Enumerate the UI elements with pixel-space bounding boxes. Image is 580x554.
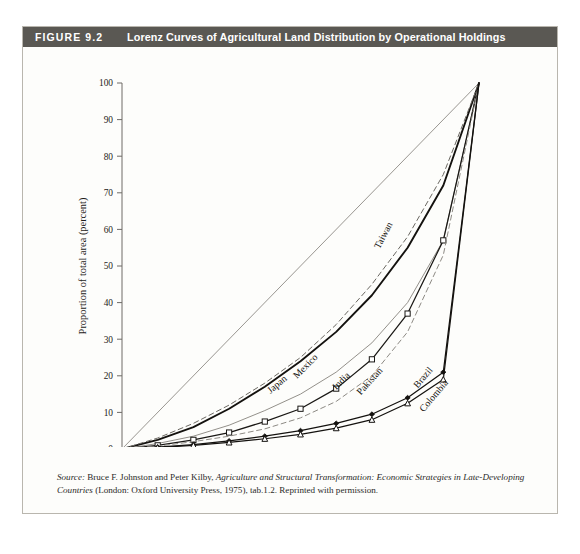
y-axis-tick-label: 50 <box>104 261 114 271</box>
series-marker-india <box>227 430 232 435</box>
y-axis-tick-label: 40 <box>104 298 114 308</box>
series-marker-india <box>441 238 446 243</box>
figure-header: FIGURE 9.2 Lorenz Curves of Agricultural… <box>23 27 557 47</box>
y-axis-tick-label: 0 <box>108 444 113 447</box>
source-note: Source: Bruce F. Johnston and Peter Kilb… <box>57 471 535 497</box>
y-axis-tick-label: 60 <box>104 225 114 235</box>
y-axis-title: Proportion of total area (percent) <box>77 198 89 335</box>
series-marker-india <box>405 311 410 316</box>
series-label-india: India <box>330 369 352 391</box>
chart-plot-area: 0102030405060708090100010203040506070809… <box>23 47 557 447</box>
source-publication: (London: Oxford University Press, 1975),… <box>93 485 378 495</box>
figure-card: FIGURE 9.2 Lorenz Curves of Agricultural… <box>22 26 558 514</box>
series-label-japan: Japan <box>265 373 289 396</box>
lorenz-curve-chart: 0102030405060708090100010203040506070809… <box>23 47 557 447</box>
figure-title: Lorenz Curves of Agricultural Land Distr… <box>127 31 506 43</box>
y-axis-tick-label: 20 <box>104 371 114 381</box>
source-authors: Bruce F. Johnston and Peter Kilby, <box>85 472 216 482</box>
y-axis-tick-label: 80 <box>104 152 114 162</box>
y-axis-tick-label: 70 <box>104 188 114 198</box>
figure-number: FIGURE 9.2 <box>23 31 127 43</box>
series-marker-india <box>262 419 267 424</box>
y-axis-tick-label: 10 <box>104 408 114 418</box>
y-axis-tick-label: 100 <box>99 78 113 88</box>
source-label: Source: <box>57 472 85 482</box>
series-label-taiwan: Taiwan <box>371 220 394 251</box>
y-axis-tick-label: 30 <box>104 335 114 345</box>
series-marker-india <box>369 357 374 362</box>
line-of-equality <box>122 83 479 447</box>
series-marker-india <box>298 406 303 411</box>
y-axis-tick-label: 90 <box>104 115 114 125</box>
